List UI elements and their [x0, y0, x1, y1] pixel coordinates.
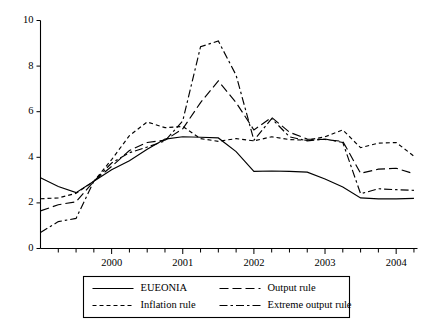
x-tick-label: 2001: [172, 257, 193, 268]
x-tick-label: 2002: [243, 257, 264, 268]
y-tick-label: 4: [28, 151, 34, 162]
legend-label-eueonia: EUEONIA: [141, 282, 188, 293]
line-chart-figure: 0246810 20002001200220032004 EUEONIAOutp…: [0, 0, 433, 326]
y-tick-label: 0: [28, 242, 33, 253]
y-tick-label: 10: [23, 14, 34, 25]
y-tick-label: 8: [28, 60, 33, 71]
x-tick-label: 2004: [386, 257, 408, 268]
y-tick-label: 6: [28, 105, 33, 116]
x-tick-label: 2003: [315, 257, 336, 268]
legend-label-extreme-output-rule: Extreme output rule: [268, 299, 352, 310]
y-tick-label: 2: [28, 196, 33, 207]
legend-label-output-rule: Output rule: [268, 282, 316, 293]
x-tick-label: 2000: [101, 257, 122, 268]
interest-rate-rules-chart: 0246810 20002001200220032004 EUEONIAOutp…: [0, 0, 433, 326]
legend-label-inflation-rule: Inflation rule: [141, 299, 196, 310]
chart-legend: EUEONIAOutput ruleInflation ruleExtreme …: [84, 277, 352, 318]
